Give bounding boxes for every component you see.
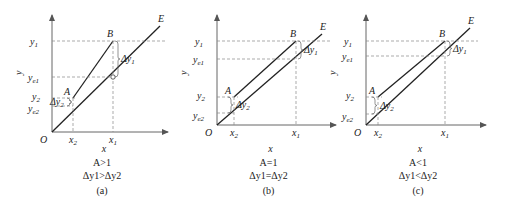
caption-condition: A<1 (409, 157, 427, 168)
label-O: O (205, 127, 212, 138)
line-OE (52, 26, 160, 132)
x-axis-title: x (417, 143, 423, 154)
line-AB (378, 41, 445, 97)
caption-tag: (c) (412, 185, 423, 197)
label-y1: y1 (194, 36, 203, 49)
label-A: A (368, 85, 376, 96)
label-ye1: ye1 (341, 51, 353, 64)
panel-c: y1ye1y2ye2Ox2x1ABEΔy1Δy2yxA<1Δy1<Δy2(c) (327, 15, 486, 197)
brace-dy2 (67, 98, 72, 106)
label-E: E (157, 13, 164, 24)
label-ye2: ye2 (27, 103, 40, 116)
label-ye2: ye2 (192, 110, 205, 123)
label-y2: y2 (196, 90, 205, 103)
label-x1: x1 (108, 134, 117, 147)
caption-condition: A>1 (93, 157, 111, 168)
caption-relation: Δy1=Δy2 (249, 170, 288, 181)
label-y2: y2 (345, 90, 354, 103)
label-dy1: Δy1 (452, 43, 467, 56)
brace-dy1 (298, 41, 303, 59)
label-x2: x2 (68, 134, 77, 147)
caption-condition: A=1 (260, 157, 278, 168)
label-x2: x2 (229, 127, 238, 140)
label-O: O (354, 127, 361, 138)
caption-relation: Δy1<Δy2 (399, 170, 438, 181)
brace-dy2 (228, 97, 233, 113)
label-x1: x1 (291, 127, 300, 140)
label-y1: y1 (343, 36, 352, 49)
label-dy1: Δy1 (303, 44, 318, 57)
label-ye1: ye1 (192, 54, 204, 67)
panel-a: y1ye1y2ye2Ox2x1ABEΔy1Δy2yxA>1Δy1>Δy2(a) (13, 13, 168, 197)
label-E: E (319, 21, 326, 32)
label-y1: y1 (29, 36, 38, 49)
label-ye2: ye2 (341, 111, 354, 124)
label-dy1: Δy1 (120, 53, 135, 66)
y-axis-title: y (327, 70, 338, 76)
label-B: B (290, 28, 296, 39)
label-B: B (439, 28, 445, 39)
caption-tag: (b) (263, 185, 275, 197)
x-axis-title: x (267, 143, 273, 154)
line-AB (73, 41, 113, 98)
label-dy2: Δy2 (235, 99, 250, 112)
y-axis-title: y (178, 70, 189, 76)
y-axis-title: y (13, 70, 24, 76)
label-ye1: ye1 (27, 72, 39, 85)
figure-canvas: y1ye1y2ye2Ox2x1ABEΔy1Δy2yxA>1Δy1>Δy2(a)y… (0, 0, 505, 208)
brace-dy2 (372, 97, 377, 114)
label-B: B (107, 28, 113, 39)
intersection-marker (111, 75, 115, 79)
line-AB (234, 41, 296, 97)
x-axis-title: x (101, 143, 107, 154)
label-x2: x2 (373, 127, 382, 140)
label-E: E (467, 15, 474, 26)
label-A: A (63, 86, 71, 97)
label-O: O (40, 134, 47, 145)
panel-b: y1ye1y2ye2Ox2x1ABEΔy1Δy2yxA=1Δy1=Δy2(b) (178, 15, 336, 197)
caption-tag: (a) (96, 185, 107, 197)
label-A: A (224, 85, 232, 96)
caption-relation: Δy1>Δy2 (83, 170, 122, 181)
brace-dy1 (115, 41, 120, 77)
label-x1: x1 (440, 127, 449, 140)
